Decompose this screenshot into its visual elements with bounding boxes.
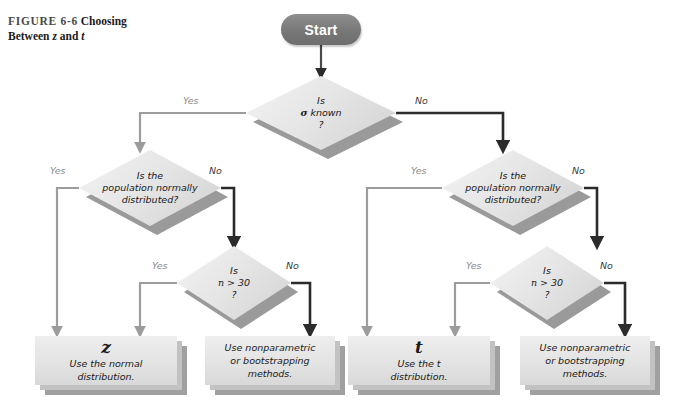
- label-sigma-no: No: [415, 95, 428, 106]
- wire-normal-left-yes: [57, 188, 79, 334]
- decision-sigma-known-face: [246, 76, 396, 150]
- label-n30-left-yes: Yes: [152, 260, 168, 271]
- result-box-t[interactable]: t Use the t distribution.: [348, 336, 490, 385]
- result-t-line2: distribution.: [390, 370, 447, 383]
- wire-normal-right-yes: [367, 188, 442, 334]
- result-z-line1: Use the normal: [70, 357, 143, 370]
- result-box-z-face: z Use the normal distribution.: [35, 336, 177, 385]
- decision-population-normal-right[interactable]: Is the population normally distributed?: [442, 150, 584, 226]
- result-box-t-face: t Use the t distribution.: [348, 336, 490, 385]
- result-nonparametric-left-line3: methods.: [248, 367, 293, 380]
- result-box-nonparametric-right-face: Use nonparametric or bootstrapping metho…: [520, 336, 650, 385]
- result-box-nonparametric-right[interactable]: Use nonparametric or bootstrapping metho…: [520, 336, 650, 385]
- label-normal-left-no: No: [209, 165, 222, 176]
- result-nonparametric-right-line3: methods.: [563, 367, 608, 380]
- decision-n-greater-30-left[interactable]: Is n > 30 ?: [177, 246, 291, 320]
- start-node[interactable]: Start: [281, 14, 361, 45]
- decision-n-greater-30-right-face: [490, 246, 604, 320]
- decision-population-normal-right-face: [442, 150, 584, 226]
- result-nonparametric-right-line1: Use nonparametric: [540, 341, 631, 354]
- label-sigma-yes: Yes: [183, 95, 199, 106]
- label-n30-left-no: No: [286, 260, 299, 271]
- decision-n-greater-30-right[interactable]: Is n > 30 ?: [490, 246, 604, 320]
- result-box-nonparametric-left[interactable]: Use nonparametric or bootstrapping metho…: [205, 336, 335, 385]
- result-nonparametric-left-line1: Use nonparametric: [225, 341, 316, 354]
- decision-population-normal-left-face: [79, 150, 221, 226]
- result-z-line2: distribution.: [77, 370, 134, 383]
- result-t-line1-pre: Use the: [397, 358, 436, 369]
- result-t-inline-symbol: t: [437, 358, 441, 369]
- wire-n30-right-yes: [455, 283, 490, 334]
- label-normal-right-yes: Yes: [411, 165, 427, 176]
- decision-sigma-known[interactable]: Is σ known ?: [246, 76, 396, 150]
- result-box-z[interactable]: z Use the normal distribution.: [35, 336, 177, 385]
- wire-sigma-no: [396, 113, 503, 150]
- label-normal-right-no: No: [572, 165, 585, 176]
- flowchart-figure: FIGURE 6-6 Choosing Between z and t: [0, 0, 676, 415]
- label-normal-left-yes: Yes: [50, 165, 66, 176]
- result-box-nonparametric-left-face: Use nonparametric or bootstrapping metho…: [205, 336, 335, 385]
- result-nonparametric-right-line2: or bootstrapping: [545, 354, 624, 367]
- label-n30-right-no: No: [600, 260, 613, 271]
- decision-population-normal-left[interactable]: Is the population normally distributed?: [79, 150, 221, 226]
- result-z-symbol: z: [101, 338, 111, 356]
- wire-sigma-yes: [140, 113, 246, 150]
- label-n30-right-yes: Yes: [466, 260, 482, 271]
- start-node-label: Start: [305, 22, 338, 38]
- wire-n30-left-yes: [140, 283, 177, 334]
- result-t-symbol: t: [415, 338, 423, 356]
- decision-n-greater-30-left-face: [177, 246, 291, 320]
- result-nonparametric-left-line2: or bootstrapping: [230, 354, 309, 367]
